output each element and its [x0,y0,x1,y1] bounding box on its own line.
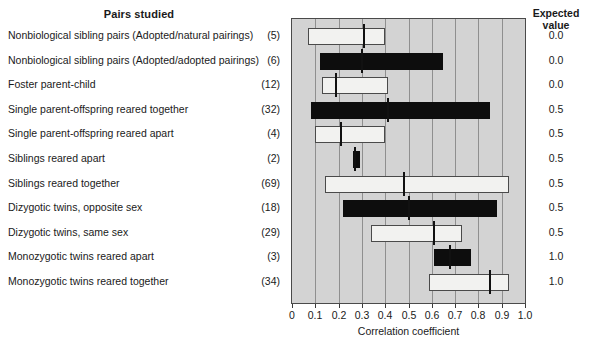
x-axis: Correlation coefficient 00.10.20.30.40.5… [291,304,526,342]
axis-tick [478,304,479,308]
expected-value-cell: 0.5 [528,127,584,139]
range-bar [325,176,509,193]
pairs-row-label: Siblings reared together(69) [8,177,280,189]
range-bar [429,274,508,291]
pairs-row-label: Dizygotic twins, opposite sex(18) [8,201,280,213]
gridline [315,19,316,303]
pairs-row-count: (12) [257,78,280,90]
expected-value-cell: 0.0 [528,54,584,66]
expected-value-cell: 0.5 [528,177,584,189]
chart-plot-wrapper [291,18,526,304]
median-marker [489,270,491,294]
pairs-row-text: Nonbiological sibling pairs (Adopted/ado… [8,54,259,66]
axis-tick [315,304,316,308]
pairs-row-label: Nonbiological sibling pairs (Adopted/nat… [8,29,280,41]
pairs-row-text: Single parent-offspring reared apart [8,127,174,139]
pairs-row-count: (6) [263,54,280,66]
pairs-row-count: (18) [257,201,280,213]
median-marker [361,49,363,73]
pairs-row-label: Siblings reared apart(2) [8,152,280,164]
pairs-row-label: Dizygotic twins, same sex(29) [8,226,280,238]
pairs-row-count: (34) [257,275,280,287]
range-bar [311,102,490,119]
pairs-row-count: (4) [263,127,280,139]
median-marker [449,245,451,269]
axis-tick [455,304,456,308]
expected-value-cell: 1.0 [528,275,584,287]
range-bar [434,249,471,266]
median-marker [363,24,365,48]
pairs-row-count: (29) [257,226,280,238]
axis-tick [502,304,503,308]
pairs-studied-column: Pairs studied Nonbiological sibling pair… [0,0,288,342]
range-bar [371,225,462,242]
pairs-row-label: Nonbiological sibling pairs (Adopted/ado… [8,54,280,66]
pairs-row-count: (5) [263,29,280,41]
pairs-row-text: Dizygotic twins, opposite sex [8,201,142,213]
range-bar [343,200,497,217]
pairs-row-text: Single parent-offspring reared together [8,103,188,115]
axis-tick [292,304,293,308]
pairs-row-label: Monozygotic twins reared together(34) [8,275,280,287]
pairs-studied-heading: Pairs studied [0,8,278,20]
gridline [502,19,503,303]
axis-tick [432,304,433,308]
pairs-row-text: Foster parent-child [8,78,96,90]
median-marker [387,98,389,122]
expected-value-cell: 0.5 [528,226,584,238]
range-bar [320,53,443,70]
gridline [478,19,479,303]
expected-value-cell: 0.0 [528,29,584,41]
pairs-row-label: Single parent-offspring reared apart(4) [8,127,280,139]
pairs-row-count: (69) [257,177,280,189]
pairs-row-text: Monozygotic twins reared apart [8,250,154,262]
pairs-row-count: (3) [263,250,280,262]
axis-tick [339,304,340,308]
pairs-row-text: Monozygotic twins reared together [8,275,169,287]
range-bar [308,28,385,45]
axis-tick [525,304,526,308]
axis-tick [385,304,386,308]
expected-value-column: Expected value 0.00.00.00.50.50.50.50.50… [528,0,590,342]
expected-value-cell: 0.5 [528,103,584,115]
expected-value-cell: 0.5 [528,201,584,213]
range-bar [315,126,385,143]
range-bar [322,77,387,94]
pairs-row-count: (2) [263,152,280,164]
axis-tick [362,304,363,308]
median-marker [354,147,356,171]
expected-value-cell: 1.0 [528,250,584,262]
median-marker [340,122,342,146]
median-marker [335,73,337,97]
x-axis-title: Correlation coefficient [291,325,526,337]
axis-tick [409,304,410,308]
pairs-row-text: Siblings reared apart [8,152,105,164]
expected-value-heading: Expected value [528,8,584,31]
pairs-row-count: (32) [257,103,280,115]
pairs-row-text: Siblings reared together [8,177,120,189]
expected-value-cell: 0.0 [528,78,584,90]
pairs-row-label: Single parent-offspring reared together(… [8,103,280,115]
median-marker [408,196,410,220]
pairs-row-text: Dizygotic twins, same sex [8,226,128,238]
median-marker [403,172,405,196]
expected-value-cell: 0.5 [528,152,584,164]
expected-value-heading-line1: Expected [533,7,580,19]
pairs-row-label: Monozygotic twins reared apart(3) [8,250,280,262]
pairs-row-text: Nonbiological sibling pairs (Adopted/nat… [8,29,253,41]
chart-plot-area [291,18,526,304]
median-marker [433,221,435,245]
pairs-row-label: Foster parent-child(12) [8,78,280,90]
